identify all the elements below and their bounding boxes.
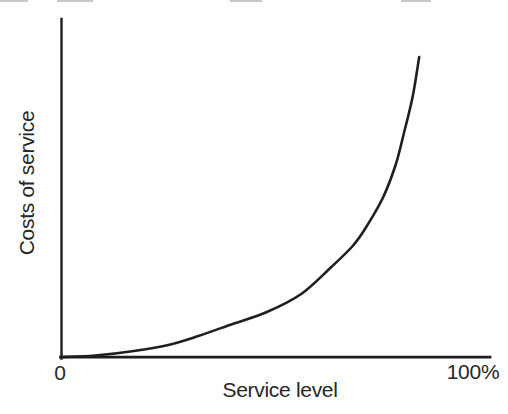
scan-artifact bbox=[57, 0, 93, 2]
scan-artifact bbox=[0, 0, 28, 2]
x-axis-title: Service level bbox=[222, 378, 337, 401]
scan-artifact bbox=[401, 0, 431, 2]
chart-canvas bbox=[0, 0, 508, 414]
cost-curve bbox=[61, 57, 419, 357]
x-tick-label-100: 100% bbox=[447, 360, 500, 383]
x-tick-label-0: 0 bbox=[54, 361, 65, 384]
cost-of-service-chart: Costs of service Service level 0 100% bbox=[0, 0, 508, 414]
y-axis-title: Costs of service bbox=[15, 111, 38, 256]
scan-artifact bbox=[230, 0, 262, 2]
